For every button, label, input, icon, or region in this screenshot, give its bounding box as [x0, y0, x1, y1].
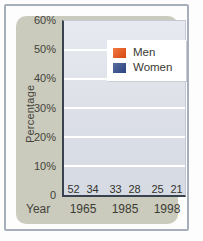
bar-value-label: 25 — [151, 183, 163, 195]
y-tick-20: 20% — [0, 130, 56, 144]
x-axis-title: Year — [26, 202, 50, 216]
bar-value-label: 34 — [86, 183, 98, 195]
y-axis-ticks: 60%50%40%30%20%10%0 — [0, 20, 56, 195]
bar-value-label: 33 — [109, 183, 121, 195]
bar-value-label: 52 — [67, 183, 79, 195]
y-tick-30: 30% — [0, 101, 56, 115]
y-tick-40: 40% — [0, 71, 56, 85]
bar-value-label: 21 — [170, 183, 182, 195]
gridline-30 — [64, 107, 185, 109]
legend-item-women: Women — [113, 61, 180, 74]
gridline-10 — [64, 165, 185, 167]
legend-swatch-men-icon — [113, 48, 126, 58]
x-tick-1998: 1998 — [154, 202, 181, 216]
legend: MenWomen — [107, 40, 186, 81]
legend-label: Women — [133, 61, 172, 74]
y-tick-60: 60% — [0, 13, 56, 27]
gridline-20 — [64, 136, 185, 138]
legend-label: Men — [133, 46, 155, 59]
y-tick-0: 0 — [0, 188, 56, 202]
legend-item-men: Men — [113, 46, 180, 59]
x-tick-1965: 1965 — [70, 202, 97, 216]
chart-figure: Percentage 60%50%40%30%20%10%0 523433282… — [0, 0, 203, 241]
y-tick-50: 50% — [0, 42, 56, 56]
bar-value-label: 28 — [128, 183, 140, 195]
legend-swatch-women-icon — [113, 63, 126, 73]
y-tick-10: 10% — [0, 159, 56, 173]
x-tick-1985: 1985 — [112, 202, 139, 216]
